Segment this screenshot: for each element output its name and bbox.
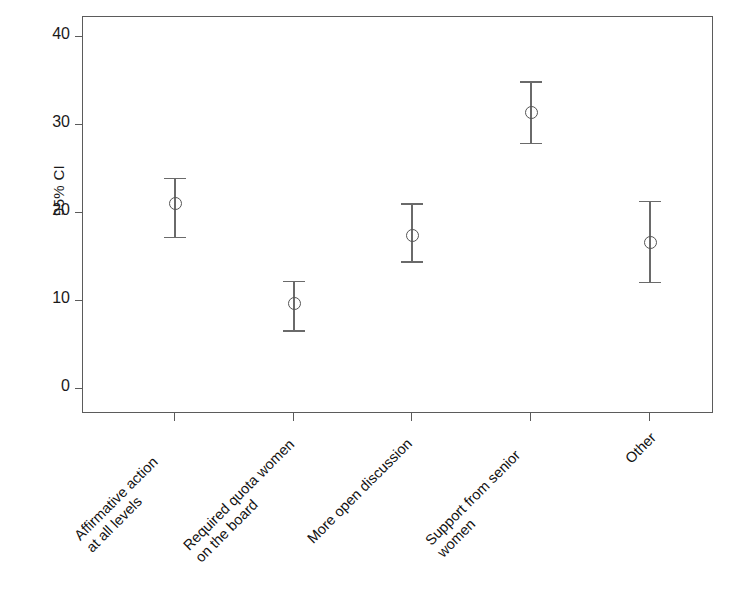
x-axis-category-label: Required quota women on the board bbox=[180, 436, 310, 566]
y-tick-mark bbox=[75, 36, 82, 37]
chart-page: 95% CI 010203040 Affirmative action at a… bbox=[0, 0, 735, 592]
data-point-marker[interactable] bbox=[406, 229, 419, 242]
error-bar-upper-cap bbox=[283, 281, 305, 283]
x-tick-mark bbox=[174, 413, 175, 421]
y-tick-mark bbox=[75, 388, 82, 389]
error-bar-lower-cap bbox=[401, 261, 423, 263]
data-point-marker[interactable] bbox=[525, 106, 538, 119]
y-tick-label: 0 bbox=[61, 377, 70, 395]
plot-area bbox=[82, 16, 713, 413]
x-axis-category-label: Affirmative action at all levels bbox=[71, 453, 173, 555]
error-bar-lower-cap bbox=[164, 237, 186, 239]
y-axis-tick: 30 bbox=[0, 124, 82, 125]
y-axis-tick: 10 bbox=[0, 300, 82, 301]
error-bar-upper-cap bbox=[164, 178, 186, 180]
data-point-marker[interactable] bbox=[169, 197, 182, 210]
y-tick-mark bbox=[75, 212, 82, 213]
error-bar-lower-cap bbox=[283, 330, 305, 332]
x-tick-mark bbox=[293, 413, 294, 421]
y-axis-tick: 40 bbox=[0, 36, 82, 37]
y-tick-label: 20 bbox=[52, 201, 70, 219]
x-tick-mark bbox=[649, 413, 650, 421]
x-axis-category-label: Support from senior women bbox=[422, 447, 536, 561]
error-bar-upper-cap bbox=[520, 81, 542, 83]
data-point-marker[interactable] bbox=[644, 236, 657, 249]
y-tick-label: 30 bbox=[52, 113, 70, 131]
error-bar-upper-cap bbox=[639, 201, 661, 203]
y-axis-tick: 20 bbox=[0, 212, 82, 213]
y-tick-label: 10 bbox=[52, 289, 70, 307]
error-bar-upper-cap bbox=[401, 203, 423, 205]
y-tick-mark bbox=[75, 124, 82, 125]
error-bar-lower-cap bbox=[520, 143, 542, 145]
y-axis-title: 95% CI bbox=[50, 131, 67, 251]
data-point-marker[interactable] bbox=[288, 297, 301, 310]
y-axis-tick: 0 bbox=[0, 388, 82, 389]
x-tick-mark bbox=[411, 413, 412, 421]
y-tick-label: 40 bbox=[52, 25, 70, 43]
x-axis-category-label: More open discussion bbox=[304, 436, 416, 548]
x-tick-mark bbox=[530, 413, 531, 421]
x-axis-category-label: Other bbox=[622, 429, 660, 467]
y-tick-mark bbox=[75, 300, 82, 301]
error-bar-lower-cap bbox=[639, 282, 661, 284]
